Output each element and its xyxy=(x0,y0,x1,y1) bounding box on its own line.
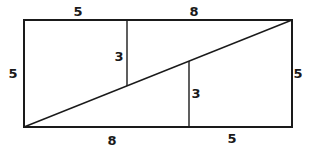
label-top-right-segment: 8 xyxy=(189,5,198,18)
label-bottom-left-segment: 8 xyxy=(107,134,116,147)
label-inner-right-vertical: 3 xyxy=(191,87,200,100)
label-left-side: 5 xyxy=(8,67,17,80)
diagram-figure xyxy=(0,0,310,156)
diagonal-line xyxy=(24,20,292,127)
label-inner-left-vertical: 3 xyxy=(114,50,123,63)
diagram-canvas: 5 8 5 5 3 3 8 5 xyxy=(0,0,310,156)
label-right-side: 5 xyxy=(293,67,302,80)
label-bottom-right-segment: 5 xyxy=(227,132,236,145)
label-top-left-segment: 5 xyxy=(73,5,82,18)
